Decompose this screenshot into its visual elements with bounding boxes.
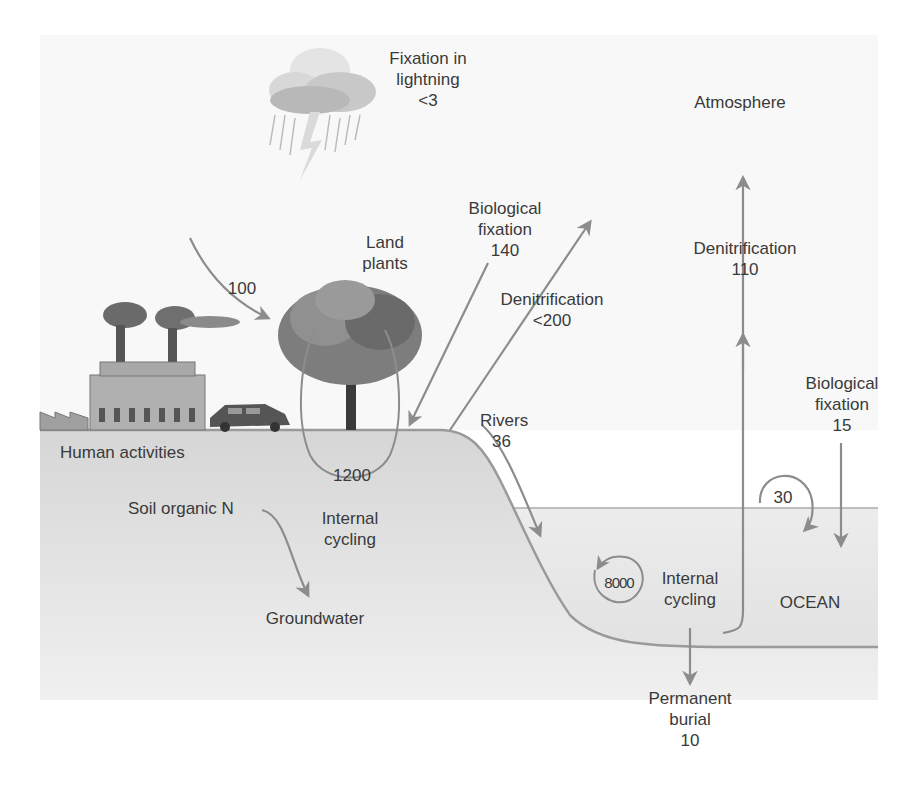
land-internal-cycling-value: 1200 [322, 465, 382, 486]
land-bio-fixation-label: Biological fixation 140 [450, 198, 560, 261]
atmosphere-label: Atmosphere [680, 92, 800, 113]
label-value: 36 [480, 431, 540, 452]
label-line: Rivers [480, 410, 540, 431]
rivers-label: Rivers 36 [480, 410, 540, 452]
label-value: 15 [787, 415, 897, 436]
label-line: lightning [378, 69, 478, 90]
label-line: cycling [650, 589, 730, 610]
label-line: cycling [305, 529, 395, 550]
label-line: fixation [450, 219, 560, 240]
ocean-denitrification-label: Denitrification 110 [675, 238, 815, 280]
label-line: Land [350, 232, 420, 253]
land-denitrification-label: Denitrification <200 [482, 289, 622, 331]
label-line: Fixation in [378, 48, 478, 69]
soil-organic-n-label: Soil organic N [128, 498, 268, 519]
label-line: fixation [787, 394, 897, 415]
human-activities-label: Human activities [60, 442, 230, 463]
label-value: <3 [378, 90, 478, 111]
label-line: Biological [450, 198, 560, 219]
label-value: 140 [450, 240, 560, 261]
land-plants-label: Land plants [350, 232, 420, 274]
land-internal-cycling-label: Internal cycling [305, 508, 395, 550]
label-line: Denitrification [675, 238, 815, 259]
nitrogen-cycle-diagram: Fixation in lightning <3 Atmosphere Biol… [0, 0, 913, 794]
label-line: Internal [305, 508, 395, 529]
label-value: <200 [482, 310, 622, 331]
label-line: Denitrification [482, 289, 622, 310]
ocean-recycle-value: 30 [768, 487, 798, 508]
label-line: burial [635, 709, 745, 730]
label-line: plants [350, 253, 420, 274]
label-line: Permanent [635, 688, 745, 709]
permanent-burial-label: Permanent burial 10 [635, 688, 745, 751]
ocean-internal-cycling-label: Internal cycling [650, 568, 730, 610]
label-line: Internal [650, 568, 730, 589]
diagram-graphics [0, 0, 913, 794]
ocean-internal-cycling-value: 8000 [597, 572, 641, 593]
label-line: Biological [787, 373, 897, 394]
human-input-value: 100 [222, 278, 262, 299]
label-value: 110 [675, 259, 815, 280]
groundwater-label: Groundwater [250, 608, 380, 629]
ocean-label: OCEAN [770, 592, 850, 613]
label-value: 10 [635, 730, 745, 751]
lightning-fixation-label: Fixation in lightning <3 [378, 48, 478, 111]
ocean-bio-fixation-label: Biological fixation 15 [787, 373, 897, 436]
